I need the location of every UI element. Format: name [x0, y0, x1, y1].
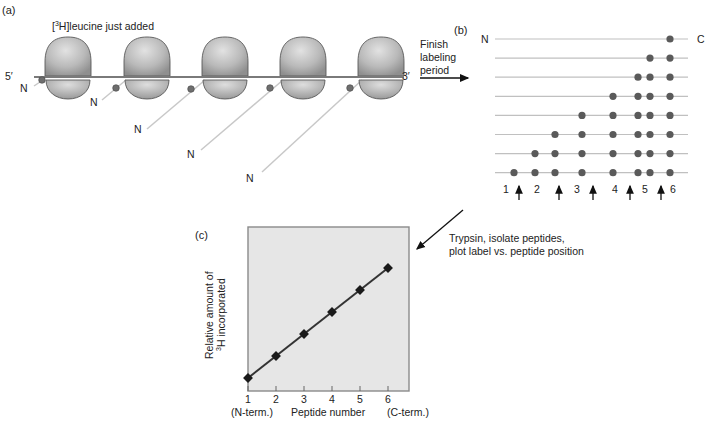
- small-subunit: [46, 80, 90, 99]
- panel-b-polypeptides: [495, 35, 688, 176]
- n-end-label: N: [481, 33, 489, 45]
- leucine-added-title: [3H]leucine just added: [52, 20, 154, 32]
- labeled-leucine-dot: [634, 150, 641, 157]
- large-subunit: [124, 37, 170, 76]
- x-tick-label: 6: [385, 393, 391, 405]
- labeled-leucine-dot: [634, 93, 641, 100]
- labeled-leucine-dot: [578, 150, 585, 157]
- large-subunit: [45, 37, 91, 76]
- peptide-number-4: 4: [612, 183, 618, 195]
- labeled-leucine-dot: [510, 169, 517, 176]
- labeled-leucine-dot: [551, 150, 558, 157]
- labeled-leucine-dot: [646, 112, 653, 119]
- ribosome: [124, 37, 170, 99]
- polypeptide-row: [495, 35, 688, 42]
- labeled-leucine-dot: [666, 55, 673, 62]
- labeled-leucine-dot: [634, 112, 641, 119]
- x-tick-label: 1: [245, 393, 251, 405]
- polypeptide-row: [495, 169, 688, 176]
- polypeptide-row: [495, 131, 688, 138]
- peptide-number-5: 5: [642, 183, 648, 195]
- x-axis-label: Peptide number: [291, 406, 365, 418]
- ribosome: [202, 37, 248, 99]
- labeled-leucine-dot: [551, 169, 558, 176]
- peptide-number-1: 1: [503, 183, 509, 195]
- labeled-leucine-dot: [646, 93, 653, 100]
- labeled-leucine-dot: [646, 74, 653, 81]
- labeled-leucine-dot: [634, 131, 641, 138]
- x-tick-label: 5: [357, 393, 363, 405]
- labeled-leucine-dot: [609, 93, 616, 100]
- labeled-leucine-dot: [634, 169, 641, 176]
- labeled-leucine-dot: [666, 150, 673, 157]
- ribosome: [45, 37, 91, 99]
- x-tick-label: 2: [273, 393, 279, 405]
- finish-labeling-text: Finish labeling period: [420, 38, 456, 77]
- labeled-leucine-dot: [666, 35, 673, 42]
- large-subunit: [358, 37, 404, 76]
- panel-a-label: (a): [2, 4, 15, 16]
- mrna-5prime-label: 5′: [5, 70, 13, 82]
- n-term-note: (N-term.): [231, 406, 273, 418]
- polypeptide-row: [495, 74, 688, 81]
- labeled-leucine-dot: [666, 74, 673, 81]
- figure-graphics: [0, 0, 711, 425]
- peptide-number-6: 6: [670, 183, 676, 195]
- trypsin-step-text: Trypsin, isolate peptides, plot label vs…: [449, 232, 584, 258]
- labeled-leucine-dot: [666, 93, 673, 100]
- polypeptide-row: [495, 112, 688, 119]
- x-tick-label: 3: [301, 393, 307, 405]
- ribosome: [358, 37, 404, 99]
- n-terminus-label-4: N: [187, 148, 195, 160]
- x-tick-label: 4: [329, 393, 335, 405]
- peptide-number-2: 2: [534, 183, 540, 195]
- labeled-leucine-dot: [531, 150, 538, 157]
- ribosome: [280, 37, 326, 99]
- y-axis-label: Relative amount of 3H incorporated: [203, 271, 227, 359]
- polypeptide-row: [495, 150, 688, 157]
- n-terminus-label-5: N: [246, 172, 254, 184]
- labeled-leucine-dot: [646, 55, 653, 62]
- labeled-leucine-dot: [609, 131, 616, 138]
- small-subunit: [281, 80, 325, 99]
- n-terminus-label-2: N: [90, 96, 98, 108]
- trypsin-cleavage-arrows: [519, 186, 661, 200]
- n-terminus-label-3: N: [134, 123, 142, 135]
- labeled-leucine-dot: [646, 150, 653, 157]
- labeled-leucine-dot: [578, 131, 585, 138]
- large-subunit: [202, 37, 248, 76]
- labeled-leucine-dot: [666, 131, 673, 138]
- labeled-leucine-dot: [646, 169, 653, 176]
- labeled-leucine-dot: [578, 169, 585, 176]
- mrna-3prime-label: 3′: [402, 70, 410, 82]
- labeled-leucine-dot: [609, 169, 616, 176]
- labeled-leucine-dot: [531, 169, 538, 176]
- peptide-number-3: 3: [574, 183, 580, 195]
- panel-c-label: (c): [195, 229, 208, 241]
- labeled-leucine-dot: [578, 112, 585, 119]
- labeled-leucine-dot: [634, 74, 641, 81]
- labeled-leucine-dot: [551, 131, 558, 138]
- c-end-label: C: [697, 33, 705, 45]
- small-subunit: [125, 80, 169, 99]
- polypeptide-row: [495, 93, 688, 100]
- nascent-chain-1: [34, 82, 40, 86]
- small-subunit: [203, 80, 247, 99]
- labeled-leucine-dot: [609, 112, 616, 119]
- panel-b-label: (b): [454, 24, 467, 36]
- c-term-note: (C-term.): [387, 406, 429, 418]
- plot-area: [248, 227, 409, 391]
- labeled-leucine-dot: [666, 112, 673, 119]
- n-terminus-label-1: N: [20, 82, 28, 94]
- labeled-leucine-dot: [666, 169, 673, 176]
- small-subunit: [359, 80, 403, 99]
- large-subunit: [280, 37, 326, 76]
- labeled-leucine-dot: [609, 150, 616, 157]
- polypeptide-row: [495, 55, 688, 62]
- labeled-leucine-dot: [646, 131, 653, 138]
